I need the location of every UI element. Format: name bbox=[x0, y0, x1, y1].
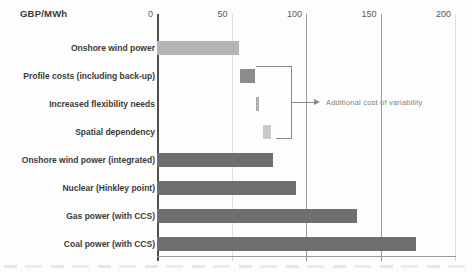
variability-bracket-top bbox=[256, 66, 292, 67]
category-label: Gas power (with CCS) bbox=[0, 210, 155, 222]
bar-chart: GBP/MWh 050100150200 Onshore wind powerP… bbox=[0, 0, 472, 272]
x-axis-tick-100 bbox=[306, 256, 307, 261]
chart-bar bbox=[157, 153, 273, 167]
gridline-150 bbox=[381, 14, 382, 256]
chart-bar bbox=[157, 237, 416, 251]
x-axis-baseline bbox=[157, 256, 456, 257]
category-label: Coal power (with CCS) bbox=[0, 238, 155, 250]
category-label: Spatial dependency bbox=[0, 126, 155, 138]
annotation-arrowhead-icon bbox=[314, 99, 320, 105]
x-axis-tick-200 bbox=[455, 256, 456, 261]
annotation-arrow-line bbox=[292, 102, 315, 103]
chart-bar bbox=[157, 181, 296, 195]
x-tick-label-150: 150 bbox=[335, 9, 377, 19]
cropped-caption-remnant bbox=[4, 265, 468, 268]
chart-bar bbox=[256, 97, 259, 111]
chart-bar bbox=[157, 209, 357, 223]
x-tick-label-50: 50 bbox=[186, 9, 228, 19]
category-label: Profile costs (including back-up) bbox=[0, 70, 155, 82]
x-tick-label-200: 200 bbox=[409, 9, 451, 19]
x-tick-label-0: 0 bbox=[111, 9, 153, 19]
x-axis-tick-150 bbox=[381, 256, 382, 261]
chart-bar bbox=[240, 69, 255, 83]
chart-bar bbox=[157, 41, 239, 55]
axis-unit-label: GBP/MWh bbox=[20, 8, 67, 19]
category-label: Nuclear (Hinkley point) bbox=[0, 182, 155, 194]
annotation-label: Additional cost of variability bbox=[326, 98, 422, 107]
category-label: Increased flexibility needs bbox=[0, 98, 155, 110]
x-tick-label-100: 100 bbox=[260, 9, 302, 19]
x-axis-tick-0 bbox=[157, 256, 159, 261]
chart-bar bbox=[263, 125, 271, 139]
category-label: Onshore wind power (integrated) bbox=[0, 154, 155, 166]
category-label: Onshore wind power bbox=[0, 42, 155, 54]
variability-bracket-bottom bbox=[276, 138, 292, 139]
gridline-200 bbox=[455, 14, 456, 256]
x-axis-tick-50 bbox=[232, 256, 233, 261]
